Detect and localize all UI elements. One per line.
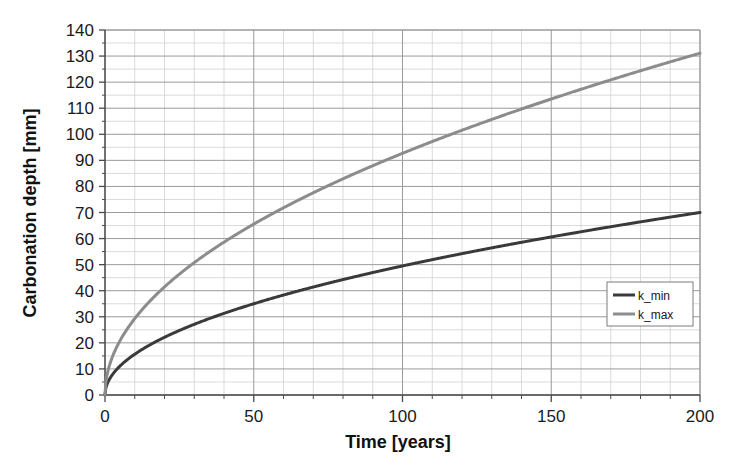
legend-label-k-min: k_min <box>638 289 670 303</box>
y-tick-label: 130 <box>66 47 94 66</box>
x-tick-label: 0 <box>100 407 109 426</box>
y-tick-label: 40 <box>75 282 94 301</box>
carbonation-depth-line-chart: 0102030405060708090100110120130140 05010… <box>0 0 732 467</box>
y-tick-label: 20 <box>75 334 94 353</box>
y-tick-label: 100 <box>66 125 94 144</box>
chart-figure: 0102030405060708090100110120130140 05010… <box>0 0 732 467</box>
y-tick-label: 90 <box>75 151 94 170</box>
chart-background <box>0 0 732 467</box>
y-tick-label: 50 <box>75 256 94 275</box>
y-tick-label: 80 <box>75 177 94 196</box>
legend-label-k-max: k_max <box>638 308 673 322</box>
x-axis-title: Time [years] <box>345 432 451 452</box>
y-tick-label: 70 <box>75 204 94 223</box>
y-tick-label: 140 <box>66 21 94 40</box>
x-tick-label: 50 <box>244 407 263 426</box>
y-axis-title: Carbonation depth [mm] <box>20 109 40 318</box>
y-tick-label: 120 <box>66 73 94 92</box>
x-tick-label: 100 <box>388 407 416 426</box>
x-tick-label: 200 <box>686 407 714 426</box>
chart-legend: k_min k_max <box>607 282 693 326</box>
y-tick-label: 0 <box>85 386 94 405</box>
y-tick-label: 10 <box>75 360 94 379</box>
y-tick-label: 30 <box>75 308 94 327</box>
y-tick-label: 110 <box>67 99 94 118</box>
y-tick-label: 60 <box>75 230 94 249</box>
x-tick-label: 150 <box>537 407 565 426</box>
